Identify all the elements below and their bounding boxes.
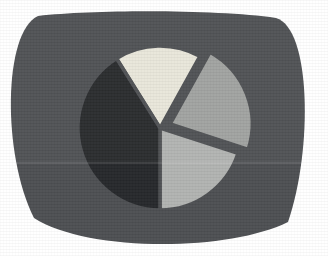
chart-canvas — [0, 0, 328, 256]
pie-chart-figure — [0, 0, 328, 256]
